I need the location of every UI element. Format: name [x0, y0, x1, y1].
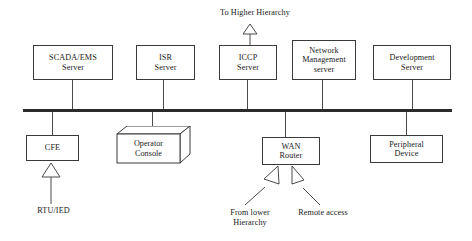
node-isr-server: ISR Server [136, 45, 195, 80]
connector-iccp-to-bus [247, 80, 248, 111]
label-from-lower-hierarchy: From lower Hierarchy [219, 208, 281, 228]
node-cfe: CFE [26, 135, 79, 161]
node-operator-console-label: Operator Console [117, 134, 180, 163]
arrow-overlay [0, 0, 472, 241]
connector-development-to-bus [412, 80, 413, 111]
connector-bus-to-cfe [52, 112, 53, 136]
node-wan-router: WAN Router [262, 137, 320, 165]
network-bus [23, 109, 452, 112]
connector-scada-to-bus [72, 80, 73, 111]
label-to-higher-hierarchy: To Higher Hierarchy [205, 8, 305, 18]
network-diagram-canvas: SCADA/EMS Server ISR Server ICCP Server … [0, 0, 472, 241]
connector-bus-to-wan-router [285, 112, 286, 138]
arrow-line-remote-access [303, 188, 320, 205]
label-remote-access: Remote access [288, 208, 358, 218]
arrow-line-from-lower-hierarchy [245, 187, 265, 205]
arrowhead-remote-access-icon [292, 166, 304, 184]
connector-bus-to-peripheral-device [406, 112, 407, 136]
connector-isr-to-bus [163, 80, 164, 111]
arrowhead-rtu-ied-icon [42, 163, 60, 177]
node-scada-ems-server: SCADA/EMS Server [33, 45, 113, 80]
node-network-management-server: Network Management server [292, 40, 356, 80]
node-development-server: Development Server [373, 45, 451, 80]
label-rtu-ied: RTU/IED [26, 206, 81, 216]
node-iccp-server: ICCP Server [219, 45, 277, 80]
node-operator-console: Operator Console [112, 126, 192, 174]
arrowhead-from-lower-hierarchy-icon [264, 166, 279, 184]
arrowhead-to-higher-hierarchy-icon [243, 24, 257, 34]
node-peripheral-device: Peripheral Device [370, 135, 443, 163]
connector-nms-to-bus [322, 80, 323, 111]
